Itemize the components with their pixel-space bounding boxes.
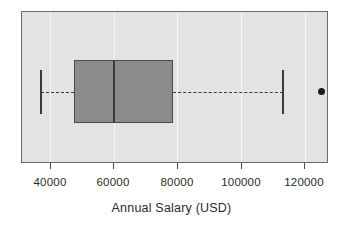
x-tick-80000 <box>177 163 178 169</box>
x-tick-label-60000: 60000 <box>97 176 130 188</box>
gridline-100000 <box>241 12 242 162</box>
gridline-80000 <box>177 12 178 162</box>
x-tick-label-40000: 40000 <box>34 176 67 188</box>
box-iqr <box>74 60 173 123</box>
x-axis-label: Annual Salary (USD) <box>0 201 343 215</box>
outlier-point <box>318 88 325 95</box>
x-tick-120000 <box>304 163 305 169</box>
whisker-cap-high <box>282 70 284 114</box>
box-plot-figure: 400006000080000100000120000 Annual Salar… <box>0 0 343 233</box>
plot-area <box>21 11 328 163</box>
whisker-cap-low <box>40 70 42 114</box>
x-tick-label-100000: 100000 <box>221 176 261 188</box>
x-tick-label-80000: 80000 <box>161 176 194 188</box>
x-tick-60000 <box>113 163 114 169</box>
x-tick-40000 <box>50 163 51 169</box>
gridline-120000 <box>305 12 306 162</box>
x-tick-label-120000: 120000 <box>284 176 324 188</box>
x-tick-100000 <box>241 163 242 169</box>
whisker-line-high <box>173 92 283 93</box>
whisker-line-low <box>41 92 74 93</box>
gridline-40000 <box>50 12 51 162</box>
median-line <box>113 60 115 123</box>
